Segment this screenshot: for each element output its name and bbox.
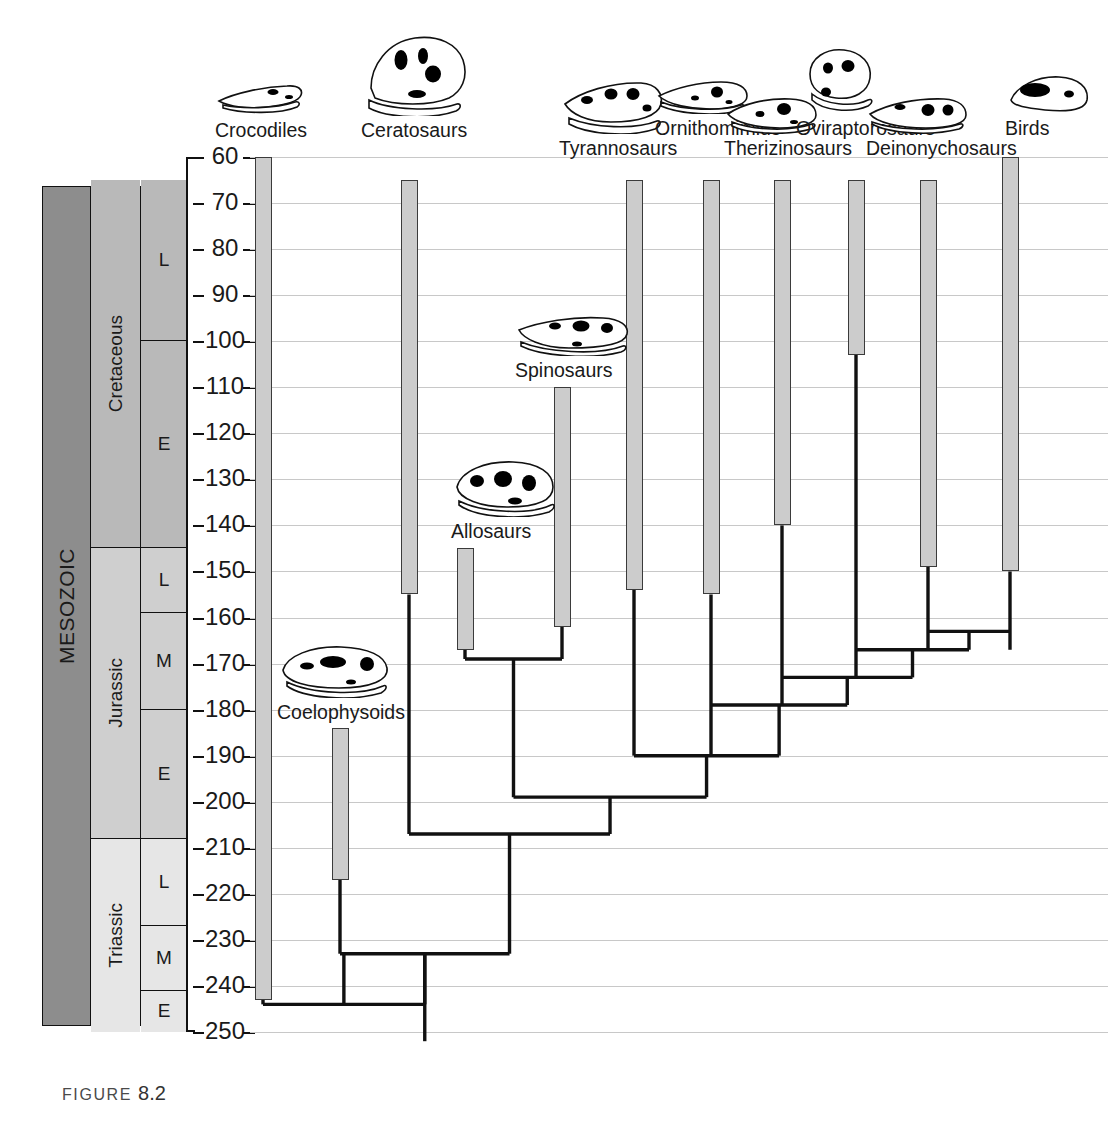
taxon-label-birds: Birds: [1005, 118, 1049, 138]
period-band-cretaceous: Cretaceous: [91, 180, 140, 548]
taxon-label-therizinosaurs: Therizinosaurs: [724, 138, 852, 158]
tick-label: 80: [202, 235, 248, 261]
tick-label: 130: [202, 465, 248, 491]
axis-tick-150: 150: [180, 571, 250, 572]
axis-tick-210: 210: [180, 848, 250, 849]
crocodile-skull-icon: [215, 71, 305, 116]
axis-tick-140: 140: [180, 525, 250, 526]
epoch-label: E: [158, 763, 171, 785]
axis-tick-70: 70: [180, 203, 250, 204]
range-bar-tyrannosaurs: [626, 180, 643, 590]
axis-tick-180: 180: [180, 710, 250, 711]
axis-tick-170: 170: [180, 664, 250, 665]
range-bar-oviraptorosaurs: [848, 180, 865, 355]
era-band-mesozoic: MESOZOIC: [43, 187, 91, 1025]
epoch-label: L: [159, 569, 170, 591]
period-label: Cretaceous: [105, 315, 127, 412]
epoch-label: L: [159, 871, 170, 893]
tyrannosaur-skull-icon: [559, 74, 667, 134]
cladogram-branches: [250, 140, 1109, 1080]
deinonychosaur-skull-icon: [866, 90, 970, 134]
taxon-label-ceratosaurs: Ceratosaurs: [361, 120, 467, 140]
axis-tick-90: 90: [180, 295, 250, 296]
axis-tick-80: 80: [180, 249, 250, 250]
era-label: MESOZOIC: [55, 548, 79, 664]
axis-tick-110: 110: [180, 387, 250, 388]
tick-label: 100: [202, 327, 248, 353]
taxon-label-allosaurs: Allosaurs: [451, 521, 531, 541]
taxon-label-crocodiles: Crocodiles: [215, 120, 307, 140]
tick-label: 180: [202, 696, 248, 722]
tick-label: 70: [202, 189, 248, 215]
axis-tick-160: 160: [180, 618, 250, 619]
tick-label: 150: [202, 557, 248, 583]
axis-tick-240: 240: [180, 986, 250, 987]
ceratosaur-skull-icon: [361, 30, 473, 116]
allosaur-skull-icon: [451, 455, 561, 517]
geologic-time-column: MESOZOIC CretaceousJurassicTriassic LELM…: [42, 186, 187, 1026]
tick-label: 160: [202, 604, 248, 630]
figure-root: MESOZOIC CretaceousJurassicTriassic LELM…: [0, 0, 1109, 1121]
tick-label: 120: [202, 419, 248, 445]
taxon-label-tyrannosaurs: Tyrannosaurs: [559, 138, 677, 158]
range-bar-coelophysoids: [332, 728, 349, 880]
spinosaur-skull-icon: [515, 308, 633, 356]
tick-label: 240: [202, 972, 248, 998]
tick-label: 170: [202, 650, 248, 676]
range-bar-crocodiles: [255, 157, 272, 1000]
axis-tick-220: 220: [180, 894, 250, 895]
epoch-label: E: [158, 1000, 171, 1022]
period-label: Jurassic: [105, 658, 127, 728]
taxon-label-deinonychosaurs: Deinonychosaurs: [866, 138, 1017, 158]
epoch-label: E: [158, 433, 171, 455]
tick-label: 200: [202, 788, 248, 814]
phylogeny-plot: [250, 140, 1109, 1050]
period-label: Triassic: [105, 903, 127, 968]
range-bar-ceratosaurs: [401, 180, 418, 594]
range-bar-ornithomimids: [703, 180, 720, 594]
tick-label: 250: [202, 1018, 248, 1044]
tick-label: 230: [202, 926, 248, 952]
axis-tick-200: 200: [180, 802, 250, 803]
time-axis: 6070809010011012013014015016017018019020…: [180, 140, 250, 1050]
range-bar-allosaurs: [457, 548, 474, 649]
tick-label: 60: [202, 143, 248, 169]
axis-tick-250: 250: [180, 1032, 250, 1033]
tick-label: 220: [202, 880, 248, 906]
range-bar-therizinosaurs: [774, 180, 791, 525]
axis-tick-120: 120: [180, 433, 250, 434]
period-band-triassic: Triassic: [91, 839, 140, 1032]
axis-tick-60: 60: [180, 157, 250, 158]
period-band-jurassic: Jurassic: [91, 548, 140, 838]
epoch-label: M: [156, 947, 172, 969]
taxon-label-coelophysoids: Coelophysoids: [277, 702, 405, 722]
coelophysoid-skull-icon: [277, 640, 395, 698]
taxon-label-spinosaurs: Spinosaurs: [515, 360, 613, 380]
tick-label: 190: [202, 742, 248, 768]
tick-label: 210: [202, 834, 248, 860]
axis-tick-100: 100: [180, 341, 250, 342]
caption-number: 8.2: [138, 1082, 166, 1104]
tick-label: 140: [202, 511, 248, 537]
epoch-label: L: [159, 249, 170, 271]
epoch-label: M: [156, 650, 172, 672]
bird-skull-icon: [1005, 70, 1093, 114]
tick-label: 90: [202, 281, 248, 307]
period-column: CretaceousJurassicTriassic: [91, 187, 141, 1025]
figure-caption: FIGURE 8.2: [62, 1082, 166, 1105]
range-bar-deinonychosaurs: [920, 180, 937, 567]
axis-tick-130: 130: [180, 479, 250, 480]
tick-label: 110: [202, 373, 248, 399]
axis-tick-230: 230: [180, 940, 250, 941]
axis-bracket: [186, 157, 195, 1032]
range-bar-birds: [1002, 157, 1019, 571]
caption-prefix: FIGURE: [62, 1086, 132, 1103]
axis-tick-190: 190: [180, 756, 250, 757]
